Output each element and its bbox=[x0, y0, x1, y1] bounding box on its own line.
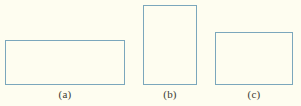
caption-b: (b) bbox=[143, 87, 197, 101]
figure-canvas: (a) (b) (c) bbox=[0, 0, 301, 106]
caption-c: (c) bbox=[215, 87, 293, 101]
rectangle-b bbox=[143, 5, 197, 85]
rectangle-c bbox=[215, 32, 293, 85]
caption-a: (a) bbox=[5, 87, 125, 101]
rectangle-a bbox=[5, 40, 125, 85]
